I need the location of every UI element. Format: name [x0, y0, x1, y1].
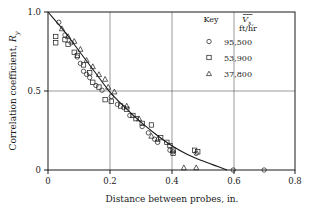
x-axis-label: Distance between probes, in. [106, 194, 239, 204]
xtick-label-0.2: 0.2 [103, 176, 117, 186]
ytick-label-0.5: 0.5 [27, 86, 41, 96]
xtick-label-0.6: 0.6 [227, 176, 241, 186]
ytick-label-1.0: 1.0 [27, 7, 41, 17]
xtick-label-0.4: 0.4 [165, 176, 179, 186]
correlation-coefficient-chart: 0 0.2 0.4 0.6 0.8 1.0 0.5 0 Distance bet… [0, 0, 321, 212]
legend-label-53900: 53,900 [224, 54, 252, 63]
y-axis-label-text: Correlation coefficient, [8, 42, 18, 151]
xtick-label-0.8: 0.8 [288, 176, 302, 186]
legend-units: ft/hr [239, 24, 257, 33]
legend-label-95500: 95,500 [224, 38, 252, 47]
legend-label-37800: 37,800 [224, 70, 252, 79]
legend-key-header: Key [203, 15, 218, 24]
chart-canvas: 0 0.2 0.4 0.6 0.8 1.0 0.5 0 Distance bet… [0, 0, 321, 212]
xtick-label-0: 0 [45, 176, 50, 186]
y-axis-label-subscript: y [13, 31, 21, 36]
ytick-label-0: 0 [36, 165, 41, 175]
